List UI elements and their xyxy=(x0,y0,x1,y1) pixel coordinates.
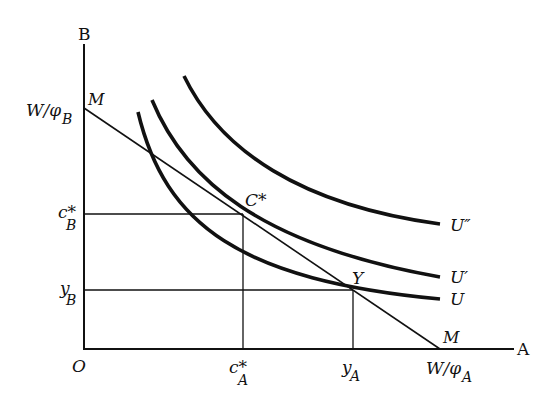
curve-u xyxy=(138,112,440,299)
curve-u-prime xyxy=(152,100,440,277)
origin-label: O xyxy=(72,356,86,376)
budget-line xyxy=(84,108,440,349)
label-u: U xyxy=(450,289,465,309)
x-intercept-label: W/φA xyxy=(426,358,472,385)
budget-top-label: M xyxy=(87,90,105,109)
endowment-label: Y xyxy=(352,268,365,288)
optimum-label: C* xyxy=(245,190,267,210)
x-tick-y-a: yA xyxy=(341,357,360,384)
x-tick-c-a: c*A xyxy=(229,357,248,388)
y-tick-c-b: c*B xyxy=(58,202,77,233)
label-u-prime: U′ xyxy=(450,267,468,287)
y-intercept-label: W/φB xyxy=(26,100,72,127)
x-axis-label: A xyxy=(516,339,530,359)
budget-bottom-label: M xyxy=(442,328,460,347)
indifference-curve-diagram: B A O U″ U′ U C* Y M M W/φB W/φA c*B yB … xyxy=(0,0,558,404)
y-tick-y-b: yB xyxy=(59,278,76,308)
y-axis-label: B xyxy=(78,24,91,44)
label-u-double-prime: U″ xyxy=(450,215,471,235)
